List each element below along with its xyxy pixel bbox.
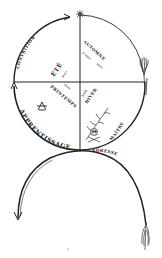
label-automne-sub: 3 mois (81, 51, 92, 61)
star-icon (76, 10, 84, 18)
skull-crossbones-branch-icon (86, 108, 110, 142)
label-automne-sub2: mois (95, 62, 104, 70)
label-automne: AUTOMNE (82, 38, 107, 61)
compass-square-icon (37, 102, 47, 110)
dot-mark (67, 248, 69, 250)
label-ete-sub: mois (61, 70, 69, 79)
label-contrition: CONTRITION (15, 35, 36, 69)
label-printemps: PRINTEMPS (49, 84, 78, 109)
label-printemps-sub: mois (63, 83, 72, 91)
seasons-diagram: CONTRITION APPRENTISSAGE ADRESSE MAÎTRE … (0, 0, 162, 258)
label-apprentissage: APPRENTISSAGE (18, 107, 71, 151)
feather-icon (142, 222, 149, 250)
lower-arc (18, 151, 146, 225)
